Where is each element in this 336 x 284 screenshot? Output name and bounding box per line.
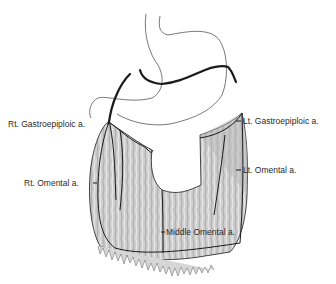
label-lt-omental: Lt. Omental a. <box>243 165 296 175</box>
label-lt-gastroepiploic: Lt. Gastroepiploic a. <box>243 116 319 126</box>
label-rt-omental: Rt. Omental a. <box>24 178 79 188</box>
diagram-drawing <box>0 0 336 284</box>
label-middle-omental: Middle Omental a. <box>166 227 235 237</box>
label-rt-gastroepiploic: Rt. Gastroepiploic a. <box>8 119 85 129</box>
omentum-diagram: Rt. Gastroepiploic a. Lt. Gastroepiploic… <box>0 0 336 284</box>
gastroepiploic-arcade <box>109 66 236 122</box>
